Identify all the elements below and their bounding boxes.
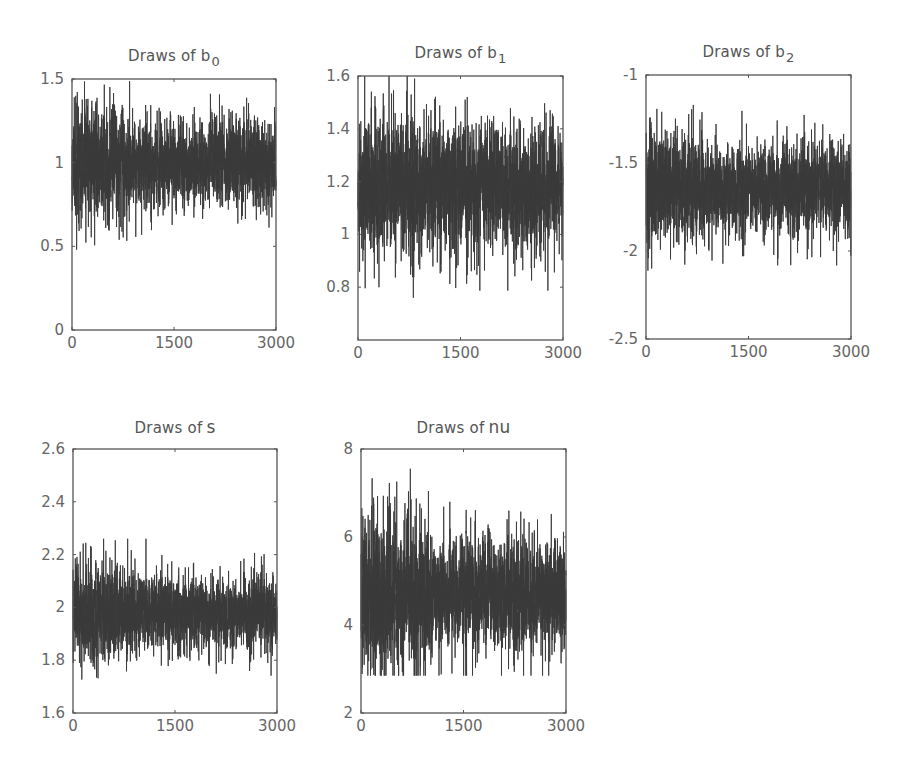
- trace-plot-s: [73, 449, 277, 713]
- trace-line-b2: [646, 105, 851, 271]
- trace-plot-b0: [72, 79, 276, 330]
- y-tick-label: 1.8: [41, 651, 71, 669]
- x-tick-label: 3000: [258, 717, 296, 735]
- plot-title-b0: Draws of b0: [128, 47, 220, 65]
- y-tick-label: -1: [623, 66, 644, 84]
- y-tick-label: 2: [55, 598, 71, 616]
- trace-plot-nu: [361, 449, 566, 713]
- y-tick-label: 1.6: [326, 67, 356, 85]
- y-tick-label: 1.6: [41, 704, 71, 722]
- y-tick-label: 0.8: [326, 278, 356, 296]
- y-tick-label: 2.2: [41, 546, 71, 564]
- y-tick-label: 2.4: [41, 493, 71, 511]
- x-tick-label: 1500: [156, 717, 194, 735]
- x-tick-label: 1500: [441, 344, 479, 362]
- trace-line-b0: [72, 81, 276, 249]
- plot-title-nu: Draws ofnu: [417, 417, 511, 437]
- trace-line-nu: [361, 469, 566, 676]
- y-tick-label: 4: [343, 616, 359, 634]
- plot-title-b2: Draws of b2: [703, 43, 795, 61]
- x-tick-label: 3000: [832, 343, 870, 361]
- x-tick-label: 1500: [729, 343, 767, 361]
- trace-plot-b1: [358, 76, 563, 340]
- x-tick-label: 3000: [547, 717, 585, 735]
- trace-line-b1: [358, 76, 563, 298]
- y-tick-label: 0.5: [40, 237, 70, 255]
- y-tick-label: 1.2: [326, 173, 356, 191]
- y-tick-label: 1.5: [40, 70, 70, 88]
- trace-plot-b2: [646, 75, 851, 339]
- plot-title-s: Draws ofs: [135, 417, 216, 437]
- x-tick-label: 3000: [544, 344, 582, 362]
- y-tick-label: 2: [343, 704, 359, 722]
- y-tick-label: -2.5: [609, 330, 644, 348]
- x-tick-label: 1500: [444, 717, 482, 735]
- plot-title-b1: Draws of b1: [415, 44, 507, 62]
- plot-canvas: [0, 0, 899, 775]
- y-tick-label: 1.4: [326, 120, 356, 138]
- x-tick-label: 3000: [257, 334, 295, 352]
- y-tick-label: 0: [54, 321, 70, 339]
- x-tick-label: 1500: [155, 334, 193, 352]
- trace-line-s: [73, 539, 277, 680]
- y-tick-label: -2: [623, 242, 644, 260]
- y-tick-label: 1: [54, 154, 70, 172]
- x-tick-label: 0: [353, 344, 363, 362]
- y-tick-label: 8: [343, 440, 359, 458]
- y-tick-label: 1: [340, 225, 356, 243]
- y-tick-label: 2.6: [41, 440, 71, 458]
- y-tick-label: 6: [343, 528, 359, 546]
- y-tick-label: -1.5: [609, 154, 644, 172]
